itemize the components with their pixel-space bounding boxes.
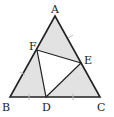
geometry-diagram: A B D C F E bbox=[0, 0, 114, 117]
label-d: D bbox=[42, 101, 51, 114]
label-e: E bbox=[84, 54, 92, 67]
label-c: C bbox=[97, 101, 105, 114]
label-b: B bbox=[2, 101, 10, 114]
label-a: A bbox=[50, 3, 60, 16]
label-f: F bbox=[29, 40, 37, 53]
tick-mark-ae bbox=[68, 35, 73, 38]
